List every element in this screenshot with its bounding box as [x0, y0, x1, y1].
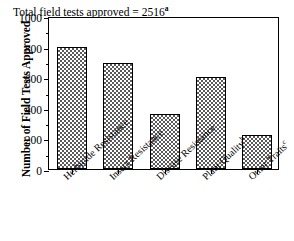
y-axis-tick	[44, 140, 49, 141]
y-axis-tick	[44, 49, 49, 50]
figure: Number of Field Tests Approved Total fie…	[0, 0, 294, 241]
y-axis-minor-tick	[46, 33, 49, 34]
y-axis-tick-label: 1000	[19, 12, 42, 24]
y-axis-tick-label: 400	[25, 104, 42, 116]
y-axis-minor-tick	[46, 125, 49, 126]
y-axis-title: Number of Field Tests Approved	[20, 14, 32, 184]
y-axis-tick-label: 800	[25, 43, 42, 55]
y-axis-tick-label: 200	[25, 134, 42, 146]
y-axis-minor-tick	[46, 64, 49, 65]
y-axis-tick	[44, 79, 49, 80]
y-axis-tick-label: 600	[25, 73, 42, 85]
y-axis-tick	[44, 18, 49, 19]
y-axis-minor-tick	[46, 156, 49, 157]
y-axis-tick	[44, 171, 49, 172]
bar	[57, 47, 87, 169]
y-axis-tick	[44, 110, 49, 111]
y-axis-tick-label: 0	[36, 165, 42, 177]
y-axis-minor-tick	[46, 95, 49, 96]
annotation-superscript: a	[165, 4, 169, 13]
